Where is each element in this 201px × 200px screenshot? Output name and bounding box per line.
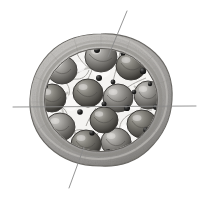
figure-root: Cross-section of a multi-loculed fruit /… — [0, 0, 201, 200]
cross-section-illustration — [0, 0, 201, 200]
